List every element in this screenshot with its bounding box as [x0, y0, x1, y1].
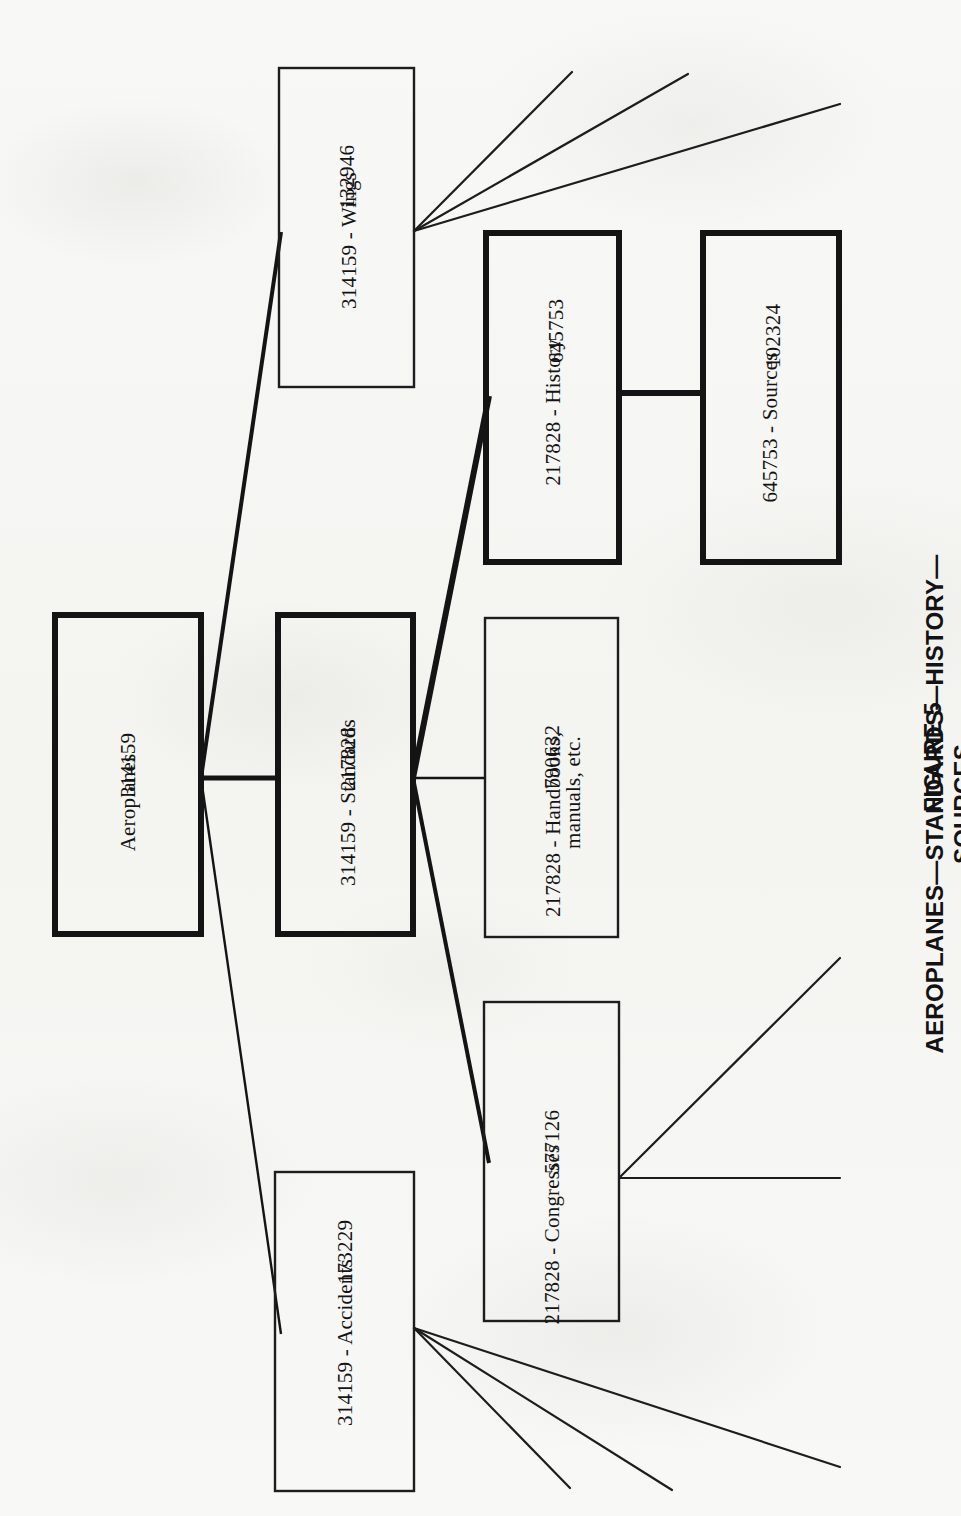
edge-aeroplanes-accidents: [201, 778, 281, 1334]
node-name-aeroplanes: Aeroplanes: [116, 708, 141, 898]
fan-lines-congresses: [619, 958, 840, 1178]
node-name-accidents: 314159 - Accidents: [333, 1243, 358, 1443]
edge-standards-history: [413, 396, 489, 778]
edge-standards-congresses: [413, 778, 489, 1163]
node-name-wings: 314159 - Wings: [337, 141, 362, 341]
wings-fan-line-2: [414, 74, 688, 231]
node-name-history: 217828 - History: [541, 313, 566, 513]
node-name-sources: 645753 - Sources: [758, 328, 783, 528]
fan-lines-accidents: [414, 1328, 840, 1490]
figure-page: 314159 Aeroplanes 217828 314159 - Standa…: [0, 0, 961, 1516]
node-name-standards: 314159 - Standards: [336, 703, 361, 903]
fan-lines-wings: [414, 72, 840, 231]
accidents-fan-line-2: [414, 1328, 672, 1490]
node-name-handbooks-line2: manuals, etc.: [561, 693, 586, 893]
congresses-fan-line-diagonal: [619, 958, 840, 1178]
accidents-fan-line-1: [414, 1328, 840, 1467]
accidents-fan-line-3: [414, 1328, 570, 1488]
node-name-congresses: 217828 - Congresses: [540, 1135, 565, 1335]
edge-aeroplanes-wings: [201, 232, 281, 778]
tree-diagram-canvas: [0, 0, 961, 1516]
figure-title: AEROPLANES—STANDARDS—HISTORY—SOURCES: [921, 554, 949, 1054]
